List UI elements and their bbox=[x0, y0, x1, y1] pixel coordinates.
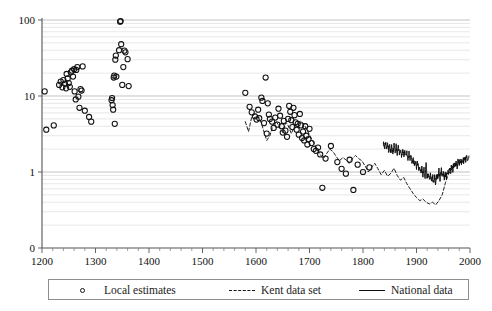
x-tick-label: 1900 bbox=[406, 255, 429, 267]
x-tick-label: 1800 bbox=[352, 255, 375, 267]
x-tick-label: 2000 bbox=[459, 255, 482, 267]
y-tick-label: 100 bbox=[19, 14, 36, 26]
data-point-marker bbox=[126, 83, 131, 88]
tick-labels: 1101000120013001400150016001700180019002… bbox=[19, 14, 482, 267]
series-local-estimates bbox=[42, 18, 372, 192]
x-tick-label: 1200 bbox=[31, 255, 54, 267]
data-point-marker bbox=[44, 127, 49, 132]
data-point-marker bbox=[123, 50, 128, 55]
data-point-marker bbox=[243, 90, 248, 95]
y-tick-label-zero: 0 bbox=[30, 242, 36, 254]
open-circle-marker-icon bbox=[72, 286, 98, 296]
plot-area: 1101000120013001400150016001700180019002… bbox=[0, 0, 492, 311]
data-point-marker bbox=[355, 162, 360, 167]
y-tick-label: 1 bbox=[30, 166, 36, 178]
data-point-marker bbox=[328, 143, 333, 148]
data-point-marker bbox=[292, 113, 297, 118]
data-point-marker bbox=[42, 89, 47, 94]
data-point-marker bbox=[72, 89, 77, 94]
x-tick-label: 1400 bbox=[138, 255, 161, 267]
data-point-marker bbox=[284, 134, 289, 139]
data-point-marker bbox=[263, 75, 268, 80]
data-point-marker bbox=[80, 64, 85, 69]
data-point-marker bbox=[247, 104, 252, 109]
x-tick-label: 1500 bbox=[192, 255, 215, 267]
axes bbox=[38, 18, 470, 253]
data-point-marker bbox=[323, 156, 328, 161]
data-point-marker bbox=[82, 108, 87, 113]
data-point-marker bbox=[261, 121, 266, 126]
data-point-marker bbox=[125, 57, 130, 62]
data-point-marker bbox=[276, 106, 281, 111]
data-point-marker bbox=[320, 185, 325, 190]
data-point-marker bbox=[339, 166, 344, 171]
data-point-marker bbox=[260, 98, 265, 103]
data-point-marker bbox=[112, 121, 117, 126]
data-point-marker bbox=[307, 126, 312, 131]
x-tick-label: 1600 bbox=[245, 255, 268, 267]
legend-label-kent-data-set: Kent data set bbox=[261, 285, 321, 297]
chart-figure: 1101000120013001400150016001700180019002… bbox=[0, 0, 492, 311]
chart-legend: Local estimates Kent data set National d… bbox=[48, 279, 469, 300]
data-point-marker bbox=[120, 82, 125, 87]
data-point-marker bbox=[70, 74, 75, 79]
legend-item-local-estimates: Local estimates bbox=[72, 280, 176, 301]
data-point-marker bbox=[335, 159, 340, 164]
legend-label-local-estimates: Local estimates bbox=[104, 285, 176, 297]
x-tick-label: 1300 bbox=[85, 255, 108, 267]
data-point-marker bbox=[294, 127, 299, 132]
data-point-marker bbox=[264, 131, 269, 136]
x-tick-label: 1700 bbox=[299, 255, 322, 267]
legend-item-kent-data-set: Kent data set bbox=[229, 280, 321, 301]
series-national-data bbox=[383, 142, 469, 185]
legend-label-national-data: National data bbox=[391, 285, 453, 297]
data-point-marker bbox=[79, 88, 84, 93]
data-point-marker bbox=[121, 65, 126, 70]
national-data-line bbox=[383, 142, 469, 185]
solid-line-icon bbox=[359, 286, 385, 296]
data-point-marker bbox=[89, 119, 94, 124]
data-point-marker bbox=[277, 113, 282, 118]
data-point-marker bbox=[297, 111, 302, 116]
legend-item-national-data: National data bbox=[359, 280, 453, 301]
data-point-marker bbox=[51, 123, 56, 128]
data-point-marker bbox=[351, 187, 356, 192]
y-tick-label: 10 bbox=[24, 90, 36, 102]
dashed-line-icon bbox=[229, 286, 255, 296]
data-point-marker bbox=[119, 42, 124, 47]
